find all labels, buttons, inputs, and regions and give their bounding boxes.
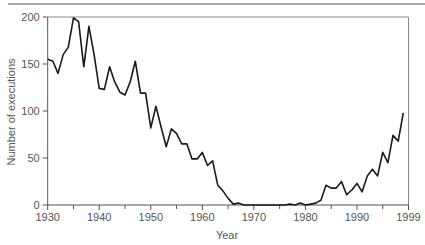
y-tick-label: 0 — [34, 199, 40, 211]
y-axis-title: Number of executions — [5, 58, 17, 165]
y-tick-label: 100 — [21, 105, 39, 117]
y-tick-label: 50 — [27, 152, 39, 164]
x-tick-label: 1999 — [396, 211, 420, 223]
y-axis: 050100150200 — [21, 11, 47, 211]
x-tick-label: 1940 — [87, 211, 111, 223]
x-tick-label: 1960 — [190, 211, 214, 223]
x-axis-title: Year — [216, 229, 239, 241]
x-tick-label: 1980 — [293, 211, 317, 223]
x-axis: 19301940195019601970198019901999 — [35, 205, 420, 223]
x-tick-label: 1970 — [242, 211, 266, 223]
x-tick-label: 1930 — [35, 211, 59, 223]
line-chart: 050100150200 193019401950196019701980199… — [0, 0, 425, 245]
x-tick-label: 1950 — [139, 211, 163, 223]
executions-line — [48, 18, 404, 205]
x-tick-label: 1990 — [345, 211, 369, 223]
plot-frame — [48, 17, 409, 205]
y-tick-label: 150 — [21, 58, 39, 70]
y-tick-label: 200 — [21, 11, 39, 23]
